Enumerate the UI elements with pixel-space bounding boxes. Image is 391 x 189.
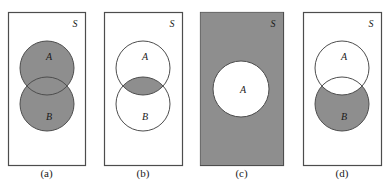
universe-label-d: S: [369, 18, 374, 29]
set-label-a-d: A: [340, 51, 348, 62]
panel-caption-d: (d): [303, 166, 381, 180]
venn-diagram-figure: SAB(a)SAB(b)SA(c)SAB(d): [0, 0, 391, 189]
venn-panel-d: SAB(d): [0, 0, 391, 189]
venn-panel-d-graphic: SAB: [0, 0, 391, 189]
shaded-region-d: [303, 12, 381, 165]
set-label-b-d: B: [341, 111, 347, 122]
